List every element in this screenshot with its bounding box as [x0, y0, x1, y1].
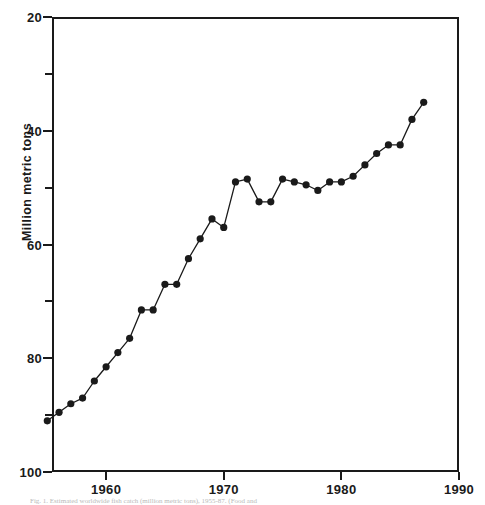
- plot-area: [52, 17, 459, 472]
- x-tick-label: 1980: [326, 482, 356, 497]
- x-tick-label: 1970: [209, 482, 239, 497]
- y-axis-title: Million metric tons: [20, 107, 34, 257]
- y-tick-major: [43, 16, 52, 18]
- y-tick-minor: [45, 187, 52, 189]
- x-tick-major: [105, 472, 107, 480]
- figure-caption: Fig. 1. Estimated worldwide fish catch (…: [30, 497, 470, 505]
- x-tick-label: 1960: [91, 482, 121, 497]
- x-tick-label: 1990: [444, 482, 474, 497]
- y-tick-major: [43, 357, 52, 359]
- y-tick-major: [43, 130, 52, 132]
- fish-catch-line-chart: 10080604020 Million metric tons 19601970…: [0, 0, 485, 505]
- y-tick-major: [43, 244, 52, 246]
- y-tick-minor: [45, 73, 52, 75]
- x-tick-major: [223, 472, 225, 480]
- y-tick-label: 20: [27, 10, 42, 25]
- y-tick-minor: [45, 414, 52, 416]
- y-tick-label: 80: [27, 351, 42, 366]
- x-tick-major: [458, 472, 460, 480]
- y-tick-minor: [45, 300, 52, 302]
- x-tick-major: [340, 472, 342, 480]
